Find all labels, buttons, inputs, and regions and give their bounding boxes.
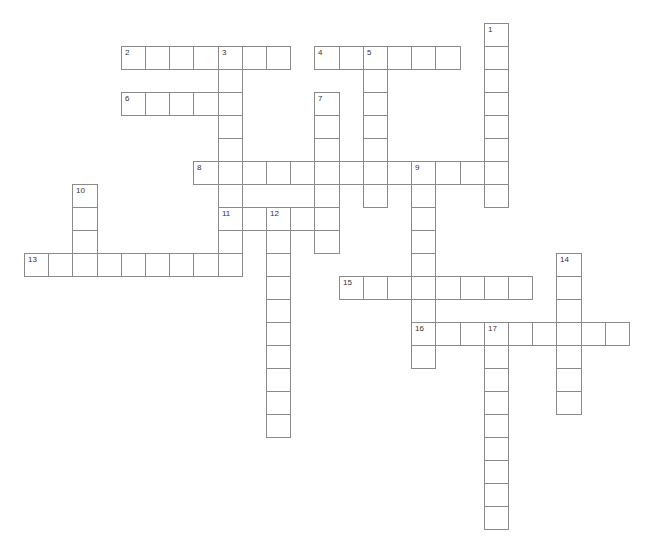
crossword-cell[interactable]	[411, 253, 436, 277]
crossword-cell[interactable]	[266, 276, 291, 300]
crossword-cell[interactable]	[121, 253, 146, 277]
crossword-cell[interactable]	[193, 253, 219, 277]
crossword-cell[interactable]	[314, 230, 340, 254]
crossword-cell[interactable]	[218, 69, 243, 93]
crossword-cell[interactable]	[266, 299, 291, 323]
crossword-cell[interactable]	[314, 161, 340, 185]
crossword-cell[interactable]	[145, 92, 170, 116]
crossword-cell[interactable]	[339, 46, 364, 70]
crossword-cell[interactable]	[169, 92, 194, 116]
crossword-cell[interactable]	[145, 46, 170, 70]
crossword-cell[interactable]	[266, 322, 291, 346]
crossword-cell[interactable]	[484, 276, 509, 300]
crossword-cell[interactable]	[411, 299, 436, 323]
crossword-cell[interactable]	[339, 161, 364, 185]
crossword-cell[interactable]	[242, 161, 267, 185]
crossword-cell[interactable]	[484, 437, 509, 461]
crossword-cell[interactable]: 15	[339, 276, 364, 300]
crossword-cell[interactable]: 6	[121, 92, 146, 116]
crossword-cell[interactable]	[218, 253, 243, 277]
crossword-cell[interactable]: 4	[314, 46, 340, 70]
crossword-cell[interactable]	[218, 138, 243, 162]
crossword-cell[interactable]	[411, 46, 436, 70]
crossword-cell[interactable]: 8	[193, 161, 219, 185]
crossword-cell[interactable]	[266, 345, 291, 369]
crossword-cell[interactable]	[484, 161, 509, 185]
crossword-cell[interactable]	[532, 322, 557, 346]
crossword-cell[interactable]	[435, 161, 461, 185]
crossword-cell[interactable]	[218, 184, 243, 208]
crossword-cell[interactable]: 11	[218, 207, 243, 231]
crossword-cell[interactable]	[145, 253, 170, 277]
crossword-cell[interactable]	[556, 345, 582, 369]
crossword-cell[interactable]	[484, 391, 509, 415]
crossword-cell[interactable]	[290, 161, 315, 185]
crossword-cell[interactable]: 2	[121, 46, 146, 70]
crossword-cell[interactable]	[314, 115, 340, 139]
crossword-cell[interactable]	[314, 184, 340, 208]
crossword-cell[interactable]	[484, 138, 509, 162]
crossword-cell[interactable]	[581, 322, 606, 346]
crossword-cell[interactable]	[218, 161, 243, 185]
crossword-cell[interactable]	[169, 46, 194, 70]
crossword-cell[interactable]	[242, 207, 267, 231]
crossword-cell[interactable]	[363, 69, 388, 93]
crossword-cell[interactable]	[218, 115, 243, 139]
crossword-cell[interactable]	[266, 230, 291, 254]
crossword-cell[interactable]	[556, 391, 582, 415]
crossword-cell[interactable]	[218, 230, 243, 254]
crossword-cell[interactable]	[411, 345, 436, 369]
crossword-cell[interactable]	[435, 276, 461, 300]
crossword-cell[interactable]	[484, 506, 509, 530]
crossword-cell[interactable]	[508, 276, 533, 300]
crossword-cell[interactable]	[266, 414, 291, 438]
crossword-cell[interactable]	[242, 46, 267, 70]
crossword-cell[interactable]	[97, 253, 122, 277]
crossword-cell[interactable]: 5	[363, 46, 388, 70]
crossword-cell[interactable]	[484, 69, 509, 93]
crossword-cell[interactable]	[314, 207, 340, 231]
crossword-cell[interactable]	[314, 138, 340, 162]
crossword-cell[interactable]	[435, 322, 461, 346]
crossword-cell[interactable]	[387, 276, 412, 300]
crossword-cell[interactable]	[387, 161, 412, 185]
crossword-cell[interactable]	[435, 46, 461, 70]
crossword-cell[interactable]	[460, 322, 485, 346]
crossword-cell[interactable]	[508, 322, 533, 346]
crossword-cell[interactable]	[363, 161, 388, 185]
crossword-cell[interactable]	[556, 322, 582, 346]
crossword-cell[interactable]	[266, 368, 291, 392]
crossword-cell[interactable]	[193, 46, 219, 70]
crossword-cell[interactable]	[218, 92, 243, 116]
crossword-cell[interactable]	[290, 207, 315, 231]
crossword-cell[interactable]	[363, 276, 388, 300]
crossword-cell[interactable]: 14	[556, 253, 582, 277]
crossword-cell[interactable]	[387, 46, 412, 70]
crossword-cell[interactable]: 12	[266, 207, 291, 231]
crossword-cell[interactable]	[484, 184, 509, 208]
crossword-cell[interactable]	[48, 253, 73, 277]
crossword-cell[interactable]: 10	[72, 184, 98, 208]
crossword-cell[interactable]	[169, 253, 194, 277]
crossword-cell[interactable]	[72, 230, 98, 254]
crossword-cell[interactable]	[484, 92, 509, 116]
crossword-cell[interactable]	[411, 230, 436, 254]
crossword-cell[interactable]	[363, 138, 388, 162]
crossword-cell[interactable]: 3	[218, 46, 243, 70]
crossword-cell[interactable]: 13	[24, 253, 49, 277]
crossword-cell[interactable]	[484, 46, 509, 70]
crossword-cell[interactable]: 17	[484, 322, 509, 346]
crossword-cell[interactable]: 7	[314, 92, 340, 116]
crossword-cell[interactable]	[605, 322, 630, 346]
crossword-cell[interactable]: 16	[411, 322, 436, 346]
crossword-cell[interactable]	[72, 207, 98, 231]
crossword-cell[interactable]	[363, 92, 388, 116]
crossword-cell[interactable]	[266, 253, 291, 277]
crossword-cell[interactable]	[72, 253, 98, 277]
crossword-cell[interactable]: 1	[484, 23, 509, 47]
crossword-cell[interactable]	[411, 184, 436, 208]
crossword-cell[interactable]	[363, 115, 388, 139]
crossword-cell[interactable]	[460, 276, 485, 300]
crossword-cell[interactable]	[266, 46, 291, 70]
crossword-cell[interactable]	[411, 276, 436, 300]
